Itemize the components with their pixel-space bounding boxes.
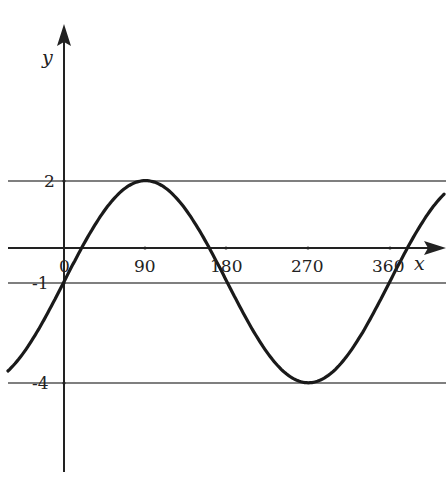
y-tick-label-minus-1: -1	[32, 273, 49, 293]
x-axis-label: x	[414, 252, 425, 274]
y-tick-label-minus-4: -4	[32, 373, 49, 393]
x-tick-label-180: 180	[210, 256, 242, 276]
sine-curve	[8, 181, 444, 383]
y-tick-label-2: 2	[44, 171, 55, 191]
x-tick-label-0: 0	[59, 256, 70, 276]
y-axis-label: y	[41, 46, 53, 68]
x-tick-label-360: 360	[372, 256, 404, 276]
x-tick-label-270: 270	[291, 256, 323, 276]
x-tick-label-90: 90	[134, 256, 156, 276]
chart: y x 0 90 180 270 360 2 -1 -4	[0, 0, 448, 478]
